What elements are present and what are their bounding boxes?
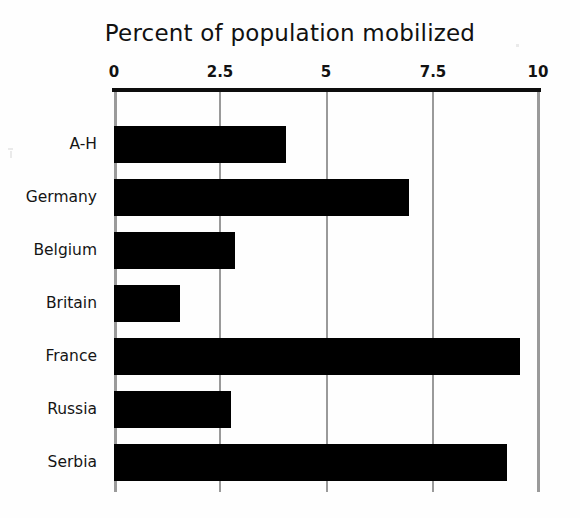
bar-row: Britain bbox=[114, 277, 539, 330]
bar-britain bbox=[114, 285, 180, 322]
bar-germany bbox=[114, 179, 409, 216]
category-label-germany: Germany bbox=[0, 179, 113, 216]
x-tick-label-2.5: 2.5 bbox=[207, 63, 234, 81]
bar-row: Germany bbox=[114, 171, 539, 224]
bars-layer: A-H Germany Belgium Britain France Russi bbox=[114, 92, 539, 492]
category-label-serbia: Serbia bbox=[0, 444, 113, 481]
scan-speckle bbox=[8, 148, 13, 150]
chart-figure: Percent of population mobilized 0 2.5 5 … bbox=[0, 0, 580, 518]
category-label-russia: Russia bbox=[0, 391, 113, 428]
x-axis-tick-labels: 0 2.5 5 7.5 10 bbox=[0, 63, 580, 83]
bar-serbia bbox=[114, 444, 507, 481]
category-label-belgium: Belgium bbox=[0, 232, 113, 269]
x-tick-label-7.5: 7.5 bbox=[420, 63, 447, 81]
x-tick-label-10: 10 bbox=[528, 63, 549, 81]
x-tick-label-0: 0 bbox=[109, 63, 119, 81]
scan-speckle bbox=[516, 44, 519, 47]
scan-speckle bbox=[10, 151, 12, 158]
bar-row: Belgium bbox=[114, 224, 539, 277]
bar-row: Serbia bbox=[114, 436, 539, 489]
bar-row: Russia bbox=[114, 383, 539, 436]
bar-belgium bbox=[114, 232, 235, 269]
category-label-britain: Britain bbox=[0, 285, 113, 322]
chart-title: Percent of population mobilized bbox=[0, 20, 580, 46]
bar-russia bbox=[114, 391, 231, 428]
bar-row: France bbox=[114, 330, 539, 383]
bar-france bbox=[114, 338, 520, 375]
category-label-france: France bbox=[0, 338, 113, 375]
x-tick-label-5: 5 bbox=[321, 63, 331, 81]
bar-row: A-H bbox=[114, 118, 539, 171]
bar-a-h bbox=[114, 126, 286, 163]
category-label-a-h: A-H bbox=[0, 126, 113, 163]
plot-area: A-H Germany Belgium Britain France Russi bbox=[114, 92, 539, 492]
